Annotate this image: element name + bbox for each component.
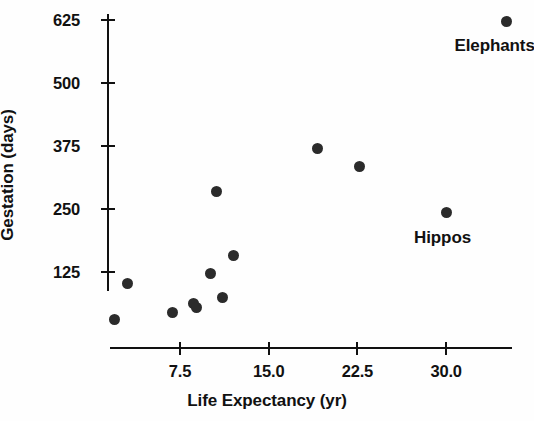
- y-axis-tick-label: 625: [53, 11, 80, 30]
- data-point: [228, 250, 239, 261]
- y-axis-tick: [101, 271, 115, 273]
- data-point: [167, 307, 178, 318]
- x-axis-tick-label: 30.0: [430, 362, 461, 381]
- y-axis-title: Gestation (days): [0, 109, 18, 241]
- x-axis-tick-label: 15.0: [253, 362, 284, 381]
- data-point: [217, 292, 228, 303]
- data-point: [109, 314, 120, 325]
- annotation-hippos: Hippos: [414, 228, 471, 248]
- y-axis-tick-label: 500: [53, 74, 80, 93]
- data-point: [122, 278, 133, 289]
- y-axis-tick-label: 375: [53, 137, 80, 156]
- x-axis-title: Life Expectancy (yr): [0, 391, 534, 411]
- x-axis-tick: [445, 342, 447, 355]
- data-point-hippos: [441, 207, 452, 218]
- x-axis-tick-label: 7.5: [169, 362, 191, 381]
- annotation-elephants: Elephants: [454, 36, 534, 56]
- data-point: [191, 302, 202, 313]
- x-axis-tick: [356, 342, 358, 355]
- y-axis-tick: [101, 145, 115, 147]
- data-point: [354, 161, 365, 172]
- y-axis-tick: [101, 208, 115, 210]
- y-axis-line: [107, 14, 109, 291]
- data-point-elephants: [501, 16, 512, 27]
- x-axis-tick: [179, 342, 181, 355]
- y-axis-tick: [101, 82, 115, 84]
- y-axis-tick: [101, 19, 115, 21]
- x-axis-tick-label: 22.5: [342, 362, 373, 381]
- data-point: [211, 186, 222, 197]
- data-point: [312, 143, 323, 154]
- x-axis-line: [110, 347, 512, 349]
- x-axis-tick: [268, 342, 270, 355]
- scatter-plot-figure: 7.515.022.530.0125250375500625 Elephants…: [0, 0, 534, 421]
- data-point: [205, 268, 216, 279]
- y-axis-tick-label: 250: [53, 200, 80, 219]
- y-axis-tick-label: 125: [53, 263, 80, 282]
